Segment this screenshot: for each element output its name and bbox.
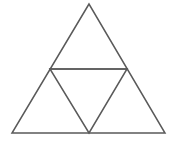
face-bottom-right-sub-triangle (89, 69, 165, 133)
face-top-sub-triangle (50, 4, 127, 69)
inner-inverted-triangle-outline (50, 69, 127, 133)
face-bottom-left-sub-triangle (12, 69, 89, 133)
triangle-edges-group (12, 4, 165, 133)
face-middle-inverted-sub-triangle (50, 69, 127, 133)
triangle-diagram-svg (0, 0, 175, 143)
triangle-diagram-canvas (0, 0, 175, 143)
